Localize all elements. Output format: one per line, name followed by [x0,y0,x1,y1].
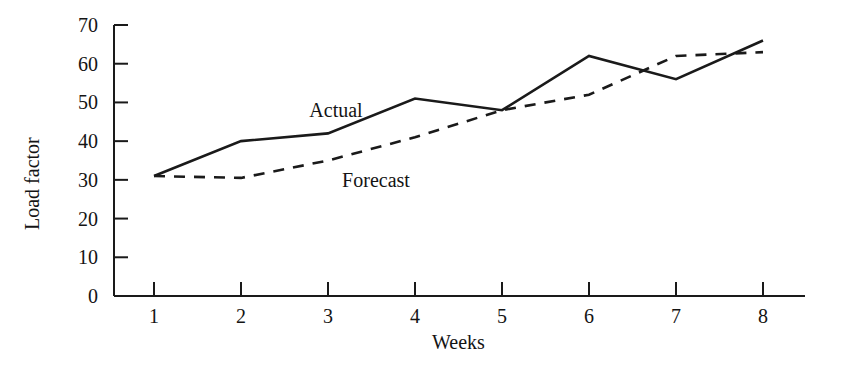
series-line-forecast [154,52,763,178]
x-axis-title: Weeks [432,332,485,352]
y-axis-title: Load factor [22,137,42,230]
series-label-actual: Actual [309,100,362,120]
series-label-forecast: Forecast [342,170,410,190]
x-axis-tick-label: 3 [323,306,333,326]
y-axis-tick-label: 10 [28,247,98,267]
line-chart-figure: 010203040506070 12345678 Load factor Wee… [0,0,841,365]
x-axis-tick-label: 8 [758,306,768,326]
series-line-actual [154,40,763,176]
x-axis-tick-label: 7 [671,306,681,326]
y-axis-tick-label: 70 [28,15,98,35]
x-axis-tick-label: 2 [236,306,246,326]
y-axis-tick-label: 0 [28,286,98,306]
x-axis-tick-label: 5 [497,306,507,326]
chart-canvas [0,0,841,365]
y-axis-ticks [114,25,128,296]
x-axis-ticks [154,282,763,296]
y-axis-tick-label: 60 [28,54,98,74]
x-axis-tick-label: 4 [410,306,420,326]
x-axis-tick-label: 1 [149,306,159,326]
x-axis-tick-label: 6 [584,306,594,326]
y-axis-tick-label: 50 [28,92,98,112]
